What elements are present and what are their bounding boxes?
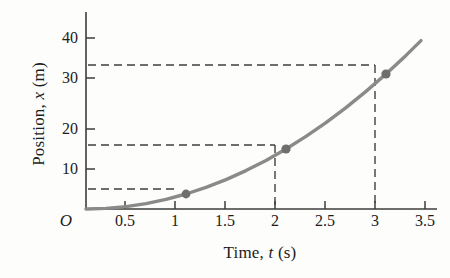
y-axis-title-symbol: x — [29, 92, 48, 100]
x-tick-label-1: 1 — [155, 212, 195, 230]
x-axis-title: Time, t (s) — [180, 243, 340, 263]
y-tick-label-20: 20 — [44, 120, 78, 138]
origin-label: O — [55, 211, 77, 231]
x-tick-label-2: 2 — [255, 212, 295, 230]
axes-group — [86, 12, 437, 209]
guide-lines-group — [88, 65, 375, 208]
y-tick-marks — [86, 38, 95, 169]
data-point-markers — [182, 69, 391, 198]
y-tick-label-10: 10 — [44, 160, 78, 178]
position-curve — [86, 41, 421, 209]
x-tick-label-3p5: 3.5 — [405, 212, 445, 230]
x-axis-title-post: (s) — [273, 243, 296, 262]
y-tick-label-40: 40 — [44, 29, 78, 47]
x-tick-label-3: 3 — [355, 212, 395, 230]
x-axis-title-pre: Time, — [224, 243, 269, 262]
data-point-t1[interactable] — [182, 190, 191, 199]
data-point-t2[interactable] — [281, 144, 290, 153]
position-time-chart: Position, x (m) Time, t (s) O 10 20 30 4… — [0, 0, 450, 278]
x-tick-label-2p5: 2.5 — [305, 212, 345, 230]
data-point-t3[interactable] — [381, 69, 390, 78]
x-tick-label-1p5: 1.5 — [205, 212, 245, 230]
x-tick-label-0p5: 0.5 — [105, 212, 145, 230]
y-tick-label-30: 30 — [44, 69, 78, 87]
